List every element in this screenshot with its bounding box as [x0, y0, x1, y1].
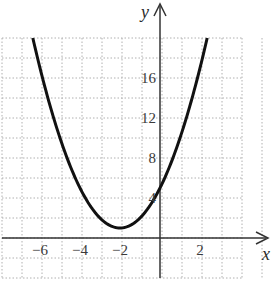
y-axis-label: y	[139, 2, 149, 22]
x-tick-label: −4	[72, 242, 88, 258]
y-tick-label: 8	[149, 150, 157, 166]
parabola-chart: −6−4−22 481216 x y	[0, 0, 274, 284]
x-tick-label: −2	[112, 242, 128, 258]
x-tick-labels: −6−4−22	[32, 242, 204, 258]
y-tick-label: 16	[141, 70, 157, 86]
x-tick-label: −6	[32, 242, 48, 258]
parabola-curve	[33, 38, 207, 228]
x-axis-label: x	[261, 244, 270, 264]
y-tick-label: 4	[149, 190, 157, 206]
y-tick-label: 12	[141, 110, 156, 126]
x-tick-label: 2	[196, 242, 204, 258]
